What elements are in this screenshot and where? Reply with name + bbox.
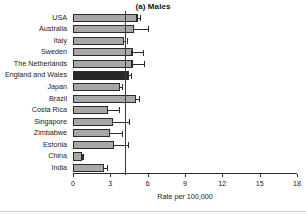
category-label-japan: Japan (47, 83, 67, 91)
bar-row (73, 151, 297, 163)
bar-row (73, 47, 297, 59)
x-tick-label: 15 (256, 179, 264, 188)
error-cap-high (119, 107, 120, 113)
error-cap-low (119, 84, 120, 90)
footer-divider (0, 211, 306, 212)
error-cap-high (107, 165, 108, 171)
bar-row (73, 12, 297, 24)
error-cap-low (131, 61, 132, 67)
x-axis-title: Rate per 100,000 (73, 192, 297, 201)
bar-row (73, 58, 297, 70)
x-tick (110, 174, 111, 177)
bar-row (73, 139, 297, 151)
error-cap-high (148, 26, 149, 32)
x-tick (222, 174, 223, 177)
error-cap-low (113, 142, 114, 148)
bar-the-netherlands (73, 60, 133, 68)
bar-brazil (73, 95, 136, 103)
error-cap-low (136, 15, 137, 21)
bar-row (73, 93, 297, 105)
x-tick-label: 6 (146, 179, 150, 188)
x-tick (297, 174, 298, 177)
category-label-estonia: Estonia (43, 141, 67, 149)
error-cap-low (123, 38, 124, 44)
bar-sweden (73, 48, 133, 56)
category-label-italy: Italy (54, 37, 67, 45)
reference-line (125, 11, 126, 175)
error-cap-low (112, 119, 113, 125)
error-cap-high (139, 96, 140, 102)
error-cap-high (127, 38, 128, 44)
x-tick-label: 18 (293, 179, 301, 188)
category-label-sweden: Sweden (41, 48, 67, 56)
bar-row (73, 162, 297, 174)
error-bar (131, 52, 142, 53)
error-bar (112, 122, 129, 123)
bar-row (73, 24, 297, 36)
plot-area: 0369121518 (73, 12, 297, 174)
bar-costa-rica (73, 106, 108, 114)
bar-row (73, 105, 297, 117)
bar-row (73, 70, 297, 82)
error-cap-low (107, 107, 108, 113)
bar-singapore (73, 118, 113, 126)
category-axis-labels: USAAustraliaItalySwedenThe NetherlandsEn… (0, 12, 70, 174)
error-cap-high (131, 73, 132, 79)
x-tick-label: 0 (71, 179, 75, 188)
bar-japan (73, 83, 120, 91)
error-cap-low (103, 165, 104, 171)
category-label-usa: USA (52, 14, 67, 22)
x-tick (260, 174, 261, 177)
error-cap-high (129, 119, 130, 125)
bar-usa (73, 14, 138, 22)
error-cap-low (128, 73, 129, 79)
x-tick-label: 9 (183, 179, 187, 188)
category-label-costa-rica: Costa Rica (32, 106, 67, 114)
bar-india (73, 164, 104, 172)
error-bar (133, 29, 148, 30)
chart-title: (a) Males (0, 2, 306, 11)
category-label-china: China (48, 152, 67, 160)
bar-england-and-wales (73, 71, 129, 79)
category-label-india: India (51, 164, 67, 172)
bar-row (73, 128, 297, 140)
x-tick (148, 174, 149, 177)
error-cap-low (135, 96, 136, 102)
error-cap-high (143, 50, 144, 56)
x-tick (185, 174, 186, 177)
category-label-brazil: Brazil (49, 95, 67, 103)
bar-estonia (73, 141, 114, 149)
error-cap-high (122, 84, 123, 90)
x-tick-label: 3 (108, 179, 112, 188)
error-bar (107, 110, 119, 111)
error-cap-high (128, 142, 129, 148)
bar-zimbabwe (73, 129, 110, 137)
error-bar (109, 133, 121, 134)
bar-row (73, 116, 297, 128)
bar-chart: (a) Males USAAustraliaItalySwedenThe Net… (0, 0, 306, 214)
error-bar (131, 64, 143, 65)
error-cap-high (140, 15, 141, 21)
error-cap-high (144, 61, 145, 67)
category-label-zimbabwe: Zimbabwe (34, 129, 67, 137)
bar-row (73, 81, 297, 93)
error-cap-high (83, 154, 84, 160)
category-label-singapore: Singapore (34, 118, 67, 126)
category-label-england-and-wales: England and Wales (5, 71, 67, 79)
category-label-australia: Australia (39, 25, 67, 33)
x-tick (73, 174, 74, 177)
error-cap-high (122, 131, 123, 137)
bar-italy (73, 37, 124, 45)
bar-china (73, 152, 82, 160)
error-cap-low (133, 26, 134, 32)
x-tick-label: 12 (218, 179, 226, 188)
error-cap-low (109, 131, 110, 137)
bar-row (73, 35, 297, 47)
error-cap-low (131, 50, 132, 56)
category-label-the-netherlands: The Netherlands (14, 60, 67, 68)
